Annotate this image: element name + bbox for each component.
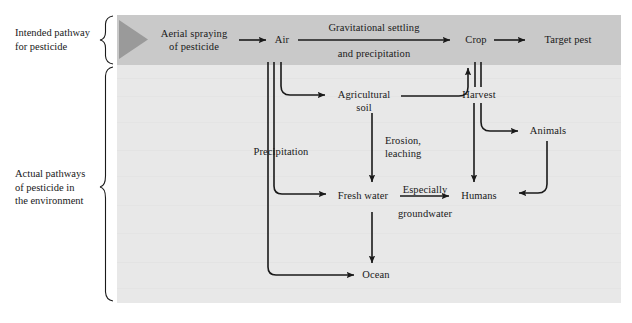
edge-label-gravitational: Gravitational settling and precipitation: [328, 21, 419, 60]
node-ocean: Ocean: [362, 269, 389, 282]
edge-erosion-line1: Erosion,: [385, 134, 421, 147]
node-harvest: Harvest: [462, 89, 495, 102]
node-aerial-spraying-line1: Aerial spraying: [161, 27, 228, 40]
node-agricultural-soil: Agricultural soil: [338, 88, 391, 114]
node-animals-label: Animals: [530, 125, 566, 138]
bracket-intended-line2: for pesticide: [15, 40, 99, 54]
node-animals: Animals: [530, 125, 566, 138]
edge-precipitation-label: Precipitation: [254, 146, 309, 159]
node-aerial-spraying: Aerial spraying of pesticide: [161, 27, 228, 53]
node-humans: Humans: [461, 190, 497, 203]
bracket-actual-line2: of pesticide in: [15, 181, 101, 195]
node-air: Air: [275, 34, 289, 47]
edge-label-erosion-leaching: Erosion, leaching: [385, 134, 421, 160]
node-crop: Crop: [465, 34, 486, 47]
edge-gravitational-line1: Gravitational settling: [328, 21, 419, 34]
edge-label-groundwater: Especially groundwater: [398, 183, 452, 220]
node-harvest-label: Harvest: [462, 89, 495, 102]
node-target-pest-label: Target pest: [544, 34, 591, 47]
edge-erosion-line2: leaching: [385, 147, 421, 160]
edge-groundwater-line2: groundwater: [398, 207, 452, 220]
node-air-label: Air: [275, 34, 289, 47]
bracket-label-actual: Actual pathways of pesticide in the envi…: [15, 167, 101, 208]
edge-gravitational-line2: and precipitation: [328, 47, 419, 60]
bracket-actual: [100, 67, 113, 301]
figure-canvas: Intended pathway for pesticide Actual pa…: [0, 0, 632, 323]
edge-groundwater-line1: Especially: [398, 183, 452, 196]
node-ocean-label: Ocean: [362, 269, 389, 282]
bracket-intended-line1: Intended pathway: [15, 26, 99, 40]
node-agricultural-soil-line1: Agricultural: [338, 88, 391, 101]
node-humans-label: Humans: [461, 190, 497, 203]
bracket-actual-line1: Actual pathways: [15, 167, 101, 181]
node-fresh-water-label: Fresh water: [338, 190, 388, 203]
node-fresh-water: Fresh water: [338, 190, 388, 203]
bracket-actual-line3: the environment: [15, 194, 101, 208]
node-aerial-spraying-line2: of pesticide: [161, 40, 228, 53]
edge-label-precipitation: Precipitation: [254, 146, 309, 159]
node-agricultural-soil-line2: soil: [338, 101, 391, 114]
node-target-pest: Target pest: [544, 34, 591, 47]
bracket-label-intended: Intended pathway for pesticide: [15, 26, 99, 53]
node-crop-label: Crop: [465, 34, 486, 47]
bracket-intended: [100, 16, 113, 64]
